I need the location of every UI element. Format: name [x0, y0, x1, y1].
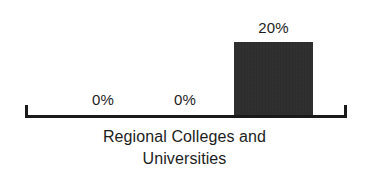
caption-line-1: Regional Colleges and	[0, 126, 369, 148]
bar-value-label-3: 20%	[234, 20, 313, 35]
caption-line-2: Universities	[0, 148, 369, 170]
x-axis-line	[25, 115, 347, 118]
bar-value-label-1: 0%	[62, 92, 144, 107]
x-axis-cap-left	[25, 105, 28, 118]
plot-area: 0% 0% 20%	[0, 0, 369, 122]
bar-category-3	[234, 42, 313, 116]
bar-value-label-2: 0%	[144, 92, 226, 107]
x-axis-cap-right	[344, 105, 347, 118]
x-axis-caption: Regional Colleges and Universities	[0, 126, 369, 170]
bar-chart: 0% 0% 20% Regional Colleges and Universi…	[0, 0, 369, 178]
